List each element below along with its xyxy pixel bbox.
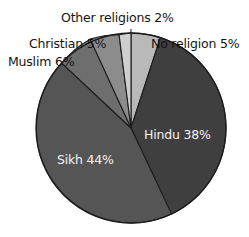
pie-label-muslim: Muslim 6% xyxy=(8,55,74,69)
pie-label-sikh: Sikh 44% xyxy=(57,153,114,167)
pie-label-christian: Christian 5% xyxy=(29,37,106,51)
pie-label-no-religion: No religion 5% xyxy=(151,37,239,51)
pie-chart-figure: Other religions 2% Christian 5% No relig… xyxy=(0,0,249,237)
pie-label-hindu: Hindu 38% xyxy=(144,128,211,142)
pie-label-other-religions: Other religions 2% xyxy=(61,11,174,25)
